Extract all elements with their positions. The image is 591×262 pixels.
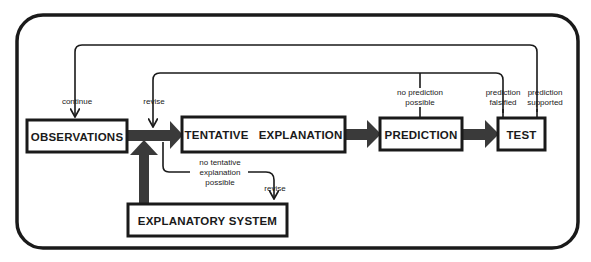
no-prediction-label-line2: possible — [405, 98, 435, 107]
no-tentative-label-line2: explanation — [200, 168, 241, 177]
supported-label-line1: prediction — [528, 88, 563, 97]
supported-label-line2: supported — [527, 98, 563, 107]
test-label: TEST — [506, 129, 536, 141]
node-test: TEST — [498, 118, 545, 150]
node-observations: OBSERVATIONS — [27, 120, 127, 152]
scientific-method-diagram: OBSERVATIONS TENTATIVE EXPLANATION PREDI… — [0, 0, 591, 262]
revise-top-label: revise — [143, 97, 165, 106]
explanatory-system-label: EXPLANATORY SYSTEM — [138, 215, 277, 227]
prediction-label: PREDICTION — [385, 129, 458, 141]
falsified-label-line2: falsified — [489, 98, 516, 107]
thick-arrow-obs-to-tentative — [127, 121, 183, 149]
thick-arrow-system-to-junction — [130, 140, 158, 204]
thick-arrow-tentative-to-prediction — [345, 120, 381, 148]
no-tentative-label-line3: possible — [205, 178, 235, 187]
revise-bottom-label: revise — [264, 184, 286, 193]
observations-label: OBSERVATIONS — [31, 131, 124, 143]
no-prediction-label-line1: no prediction — [397, 88, 443, 97]
tentative-explanation-label: TENTATIVE EXPLANATION — [185, 129, 343, 141]
falsified-label-line1: prediction — [486, 88, 521, 97]
continue-label: continue — [62, 97, 93, 106]
no-tentative-label-line1: no tentative — [199, 158, 241, 167]
node-tentative-explanation: TENTATIVE EXPLANATION — [182, 117, 345, 152]
node-explanatory-system: EXPLANATORY SYSTEM — [128, 204, 287, 236]
node-prediction: PREDICTION — [380, 118, 462, 150]
thick-arrow-prediction-to-test — [462, 120, 499, 148]
